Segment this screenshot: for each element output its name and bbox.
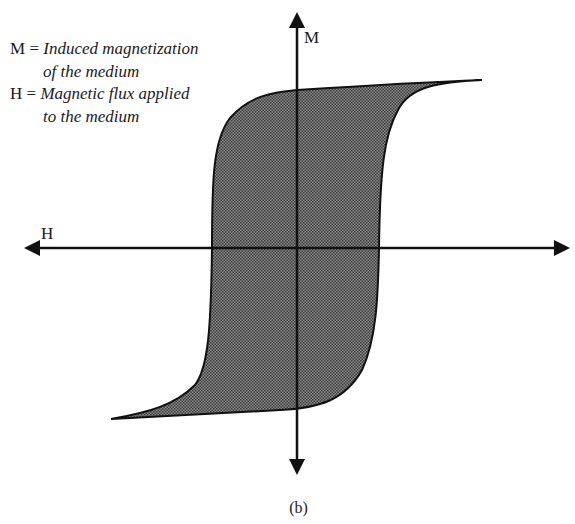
legend-separator: = bbox=[25, 39, 43, 58]
legend-continuation: to the medium bbox=[10, 106, 199, 129]
legend-symbol: H bbox=[10, 84, 22, 103]
legend-separator: = bbox=[22, 84, 40, 103]
h-axis-left-arrow-icon bbox=[24, 240, 40, 256]
hysteresis-diagram: M = Induced magnetization of the medium … bbox=[0, 0, 575, 524]
legend: M = Induced magnetization of the medium … bbox=[10, 38, 199, 128]
m-axis-up-arrow-icon bbox=[289, 12, 305, 28]
legend-item-h: H = Magnetic flux applied bbox=[10, 83, 199, 106]
h-axis-right-arrow-icon bbox=[554, 240, 570, 256]
h-axis-label: H bbox=[41, 224, 53, 244]
m-axis-label: M bbox=[304, 28, 319, 48]
m-axis-down-arrow-icon bbox=[289, 459, 305, 475]
figure-caption: (b) bbox=[0, 499, 575, 517]
legend-description: Magnetic flux applied bbox=[40, 84, 189, 103]
legend-continuation: of the medium bbox=[10, 61, 199, 84]
legend-description: Induced magnetization bbox=[43, 39, 198, 58]
legend-symbol: M bbox=[10, 39, 25, 58]
legend-item-m: M = Induced magnetization bbox=[10, 38, 199, 61]
